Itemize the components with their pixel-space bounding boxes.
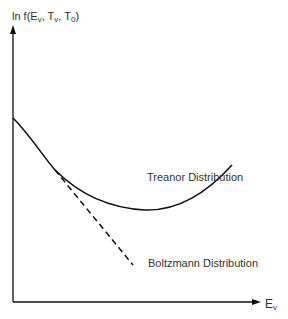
boltzmann-curve (55, 170, 133, 265)
treanor-label: Treanor Distribution (147, 171, 243, 183)
y-axis-label: ln f(Ev, Tv, T0) (12, 10, 79, 24)
distribution-diagram (0, 0, 288, 319)
y-axis-arrow-icon (10, 25, 16, 34)
treanor-curve (13, 118, 232, 210)
boltzmann-label: Boltzmann Distribution (148, 257, 258, 269)
x-axis-arrow-icon (252, 299, 261, 305)
x-axis-label: Ev (265, 297, 277, 312)
